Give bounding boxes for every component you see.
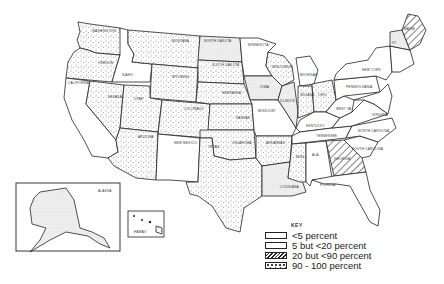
label-florida: FLORIDA — [320, 183, 336, 187]
label-minnesota: MINNESOTA — [248, 43, 269, 47]
label-maine: MAINE — [404, 27, 415, 31]
hawaii-island-3 — [149, 221, 151, 223]
svg-text:WISCONSIN: WISCONSIN — [272, 65, 293, 69]
svg-text:MONTANA: MONTANA — [172, 39, 190, 43]
svg-text:MAINE: MAINE — [404, 27, 415, 31]
svg-text:WYOMING: WYOMING — [172, 75, 190, 79]
state-montana — [128, 30, 200, 68]
label-oregon: OREGON — [98, 61, 114, 65]
label-mississippi: MISS. — [296, 155, 306, 159]
label-missouri: MISSOURI — [258, 109, 275, 113]
label-california: CALIFORNIA — [68, 81, 90, 85]
label-kentucky: KENTUCKY — [306, 124, 326, 128]
label-georgia: GEORGIA — [334, 157, 351, 161]
key-row-90-to-100: 90 - 100 percent — [265, 260, 435, 270]
svg-text:CALIFORNIA: CALIFORNIA — [68, 81, 90, 85]
label-kansas: KANSAS — [236, 116, 250, 120]
svg-text:COLORADO: COLORADO — [184, 107, 204, 111]
svg-text:MINNESOTA: MINNESOTA — [248, 43, 269, 47]
svg-text:FLORIDA: FLORIDA — [320, 183, 336, 187]
svg-text:WASHINGTON: WASHINGTON — [92, 29, 116, 33]
swatch-stipple-icon — [265, 262, 287, 269]
label-washington: WASHINGTON — [92, 29, 116, 33]
label-iowa: IOWA — [260, 85, 270, 89]
svg-text:NEVADA: NEVADA — [108, 95, 123, 99]
key-row-5-to-20: 5 but <20 percent — [265, 240, 435, 250]
state-florida — [312, 172, 380, 226]
svg-text:ILLINOIS: ILLINOIS — [280, 99, 295, 103]
svg-text:ALA.: ALA. — [312, 153, 320, 157]
label-vermont: VT. — [392, 41, 397, 45]
label-north-carolina: NORTH CAROLINA — [358, 129, 390, 133]
svg-text:ARKANSAS: ARKANSAS — [266, 141, 285, 145]
label-new-mexico: NEW MEXICO — [174, 141, 197, 145]
label-montana: MONTANA — [172, 39, 190, 43]
label-south-dakota: SOUTH DAKOTA — [212, 63, 240, 67]
svg-text:NEBRASKA: NEBRASKA — [222, 91, 242, 95]
label-nebraska: NEBRASKA — [222, 91, 242, 95]
hawaii-island-2 — [141, 219, 143, 221]
svg-text:UTAH: UTAH — [134, 97, 144, 101]
svg-text:PENNSYLVANIA: PENNSYLVANIA — [346, 85, 373, 89]
label-wisconsin: WISCONSIN — [272, 65, 293, 69]
svg-text:INDIANA: INDIANA — [300, 93, 315, 97]
label-utah: UTAH — [134, 97, 144, 101]
state-new-york — [334, 46, 392, 80]
label-nevada: NEVADA — [108, 95, 123, 99]
svg-text:VT.: VT. — [392, 41, 397, 45]
svg-text:NEW MEXICO: NEW MEXICO — [174, 141, 197, 145]
svg-text:VIRGINIA: VIRGINIA — [372, 113, 388, 117]
label-ohio: OHIO — [318, 93, 327, 97]
label-wyoming: WYOMING — [172, 75, 190, 79]
svg-text:KENTUCKY: KENTUCKY — [306, 124, 326, 128]
label-texas: TEXAS — [208, 145, 219, 149]
svg-text:ALASKA: ALASKA — [98, 189, 112, 193]
svg-text:IDAHO: IDAHO — [122, 73, 133, 77]
label-oklahoma: OKLAHOMA — [232, 141, 252, 145]
state-michigan — [296, 56, 318, 86]
svg-text:MISS.: MISS. — [296, 155, 306, 159]
svg-text:WEST VA.: WEST VA. — [336, 107, 353, 111]
map-key: KEY <5 percent 5 but <20 percent 20 but … — [265, 222, 435, 270]
svg-text:OHIO: OHIO — [318, 93, 327, 97]
label-tennessee: TENNESSEE — [316, 134, 337, 138]
label-illinois: ILLINOIS — [280, 99, 295, 103]
svg-text:LOUISIANA: LOUISIANA — [280, 185, 299, 189]
svg-text:NORTH DAKOTA: NORTH DAKOTA — [204, 39, 232, 43]
key-label: 90 - 100 percent — [292, 260, 361, 271]
svg-text:MICHIGAN: MICHIGAN — [300, 73, 318, 77]
hawaii-island-1 — [133, 215, 135, 217]
svg-text:IOWA: IOWA — [260, 85, 270, 89]
label-alabama: ALA. — [312, 153, 320, 157]
label-idaho: IDAHO — [122, 73, 133, 77]
swatch-hatch-icon — [265, 252, 287, 259]
svg-text:ARIZONA: ARIZONA — [138, 135, 154, 139]
key-row-under-5: <5 percent — [265, 230, 435, 240]
svg-text:SOUTH CAROLINA: SOUTH CAROLINA — [352, 147, 384, 151]
swatch-blank-icon — [265, 232, 287, 239]
label-south-carolina: SOUTH CAROLINA — [352, 147, 384, 151]
svg-text:GEORGIA: GEORGIA — [334, 157, 351, 161]
label-north-dakota: NORTH DAKOTA — [204, 39, 232, 43]
label-hawaii: HAWAII — [134, 230, 146, 234]
svg-text:SOUTH DAKOTA: SOUTH DAKOTA — [212, 63, 240, 67]
svg-text:TEXAS: TEXAS — [208, 145, 219, 149]
label-new-york: NEW YORK — [362, 68, 382, 72]
label-indiana: INDIANA — [300, 93, 315, 97]
svg-text:TENNESSEE: TENNESSEE — [316, 134, 337, 138]
label-michigan: MICHIGAN — [300, 73, 318, 77]
svg-text:OREGON: OREGON — [98, 61, 114, 65]
key-title: KEY — [291, 222, 435, 228]
svg-text:NORTH CAROLINA: NORTH CAROLINA — [358, 129, 390, 133]
key-row-20-to-90: 20 but <90 percent — [265, 250, 435, 260]
swatch-fine-dots-icon — [265, 242, 287, 249]
label-virginia: VIRGINIA — [372, 113, 388, 117]
label-arkansas: ARKANSAS — [266, 141, 285, 145]
svg-text:OKLAHOMA: OKLAHOMA — [232, 141, 252, 145]
svg-text:KANSAS: KANSAS — [236, 116, 250, 120]
label-louisiana: LOUISIANA — [280, 185, 299, 189]
label-west-virginia: WEST VA. — [336, 107, 353, 111]
label-arizona: ARIZONA — [138, 135, 154, 139]
label-colorado: COLORADO — [184, 107, 204, 111]
state-wyoming — [150, 64, 198, 102]
